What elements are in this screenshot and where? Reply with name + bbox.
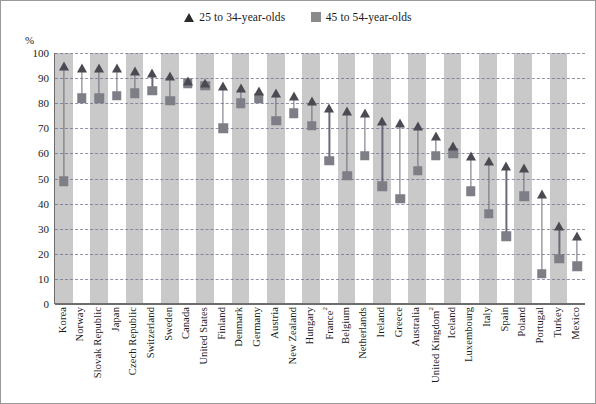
x-axis-label-text: Japan <box>111 307 122 331</box>
data-column <box>321 53 339 303</box>
square-marker <box>289 108 299 118</box>
y-axis-tick-label: 80 <box>38 97 49 109</box>
x-axis-label: United States <box>196 307 214 402</box>
data-column <box>161 53 179 303</box>
triangle-marker <box>324 104 334 113</box>
x-axis-label-text: Belgium <box>341 307 352 344</box>
triangle-marker <box>165 71 175 80</box>
legend-label-25-34: 25 to 34-year-olds <box>199 11 285 23</box>
triangle-marker <box>147 69 157 78</box>
y-axis-tick-label: 30 <box>38 223 49 235</box>
triangle-marker <box>448 141 458 150</box>
connector-line <box>488 161 489 214</box>
x-axis-label-text: Czech Republic <box>128 307 139 375</box>
square-marker <box>130 88 140 98</box>
x-axis-label-text: Norway <box>75 307 86 341</box>
square-marker <box>271 116 281 126</box>
x-axis-labels: KoreaNorwaySlovak RepublicJapanCzech Rep… <box>54 307 585 402</box>
legend-label-45-54: 45 to 54-year-olds <box>326 11 412 23</box>
triangle-marker <box>271 89 281 98</box>
x-axis-label: Poland <box>514 307 532 402</box>
square-marker <box>502 231 512 241</box>
data-column <box>197 53 215 303</box>
square-marker <box>555 254 565 264</box>
data-column <box>90 53 108 303</box>
data-column <box>232 53 250 303</box>
x-axis-label: Luxembourg <box>461 307 479 402</box>
square-marker <box>360 151 370 161</box>
y-axis-tick-label: 100 <box>33 47 50 59</box>
y-axis-tick-label: 90 <box>38 72 49 84</box>
connector-line <box>417 126 418 171</box>
x-axis-label-text: Korea <box>58 307 69 333</box>
triangle-marker <box>289 91 299 100</box>
x-axis-label-text: Sweden <box>164 307 175 341</box>
triangle-marker <box>431 131 441 140</box>
x-axis-label-text: United States <box>199 307 210 365</box>
data-column <box>427 53 445 303</box>
data-column <box>144 53 162 303</box>
data-column <box>498 53 516 303</box>
triangle-marker <box>59 61 69 70</box>
x-axis-label-text: Australia <box>411 307 422 346</box>
x-axis-label-text: Finland <box>217 307 228 340</box>
y-axis-tick-label: 50 <box>38 173 49 185</box>
square-marker <box>342 171 352 181</box>
x-axis-label: Norway <box>72 307 90 402</box>
legend-item-45-54: 45 to 54-year-olds <box>311 11 411 23</box>
square-marker <box>378 181 388 191</box>
connector-line <box>541 194 542 274</box>
data-column <box>73 53 91 303</box>
triangle-marker <box>236 84 246 93</box>
data-column <box>462 53 480 303</box>
x-axis-label-text: Poland <box>517 307 528 337</box>
x-axis-label-text: Canada <box>181 307 192 339</box>
y-axis-tick-label: 20 <box>38 248 49 260</box>
triangle-marker <box>183 76 193 85</box>
x-axis-label-text: Turkey <box>553 307 564 338</box>
square-marker <box>59 176 69 186</box>
triangle-marker <box>130 66 140 75</box>
y-axis-tick-label: 60 <box>38 147 49 159</box>
connector-line <box>223 86 224 129</box>
square-marker <box>307 121 317 131</box>
square-marker <box>148 86 158 96</box>
x-axis-label: Czech Republic <box>125 307 143 402</box>
x-axis-label-text: Italy <box>482 307 493 327</box>
x-axis-label-text: Slovak Republic <box>93 307 104 378</box>
triangle-marker <box>413 121 423 130</box>
gridline <box>55 304 585 305</box>
square-marker <box>572 262 582 272</box>
square-marker <box>484 209 494 219</box>
connector-line <box>364 113 365 156</box>
x-axis-label-text: Hungary <box>305 307 316 344</box>
x-axis-label-text: Portugal <box>535 307 546 343</box>
x-axis-label-text: Luxembourg <box>464 307 475 362</box>
data-column <box>409 53 427 303</box>
x-axis-label: Netherlands <box>355 307 373 402</box>
triangle-marker <box>395 119 405 128</box>
chart-legend: 25 to 34-year-olds 45 to 54-year-olds <box>1 11 595 23</box>
x-axis-label: France2 <box>319 307 337 402</box>
triangle-marker <box>537 189 547 198</box>
x-axis-label-text: New Zealand <box>288 307 299 364</box>
x-axis-label: Greece <box>390 307 408 402</box>
x-axis-label: Sweden <box>160 307 178 402</box>
x-axis-label: Slovak Republic <box>89 307 107 402</box>
data-column <box>480 53 498 303</box>
x-axis-label: Hungary <box>302 307 320 402</box>
chart-figure: 25 to 34-year-olds 45 to 54-year-olds % … <box>0 0 596 404</box>
data-column <box>551 53 569 303</box>
x-axis-label: Mexico <box>567 307 585 402</box>
data-series <box>55 53 585 303</box>
square-marker <box>218 124 228 134</box>
plot-area <box>54 53 585 304</box>
x-axis-label-text: Netherlands <box>358 307 369 359</box>
data-column <box>374 53 392 303</box>
data-column <box>338 53 356 303</box>
x-axis-label: United Kingdom2 <box>425 307 443 402</box>
x-axis-label-text: Switzerland <box>146 307 157 358</box>
x-axis-label: Japan <box>107 307 125 402</box>
y-axis-tick-label: 10 <box>38 273 49 285</box>
data-column <box>391 53 409 303</box>
